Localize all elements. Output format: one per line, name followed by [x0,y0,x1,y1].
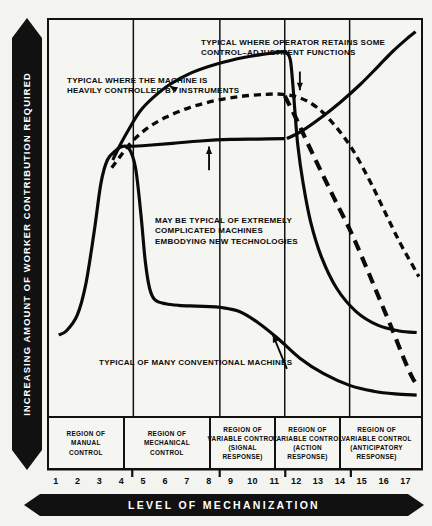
x-tick-label: 2 [75,476,80,486]
annotation-instruments: TYPICAL WHERE THE MACHINE IS HEAVILY CON… [67,76,239,97]
annotation-complicated-machines: MAY BE TYPICAL OF EXTREMELY COMPLICATED … [155,216,298,247]
x-tick-label: 14 [335,476,345,486]
x-axis-ticks: 1234567891011121314151617 [47,470,423,490]
region-label: REGION OF VARIABLE CONTROL (ACTION RESPO… [272,425,342,461]
series-curve [112,94,419,277]
x-tick-label: 17 [400,476,410,486]
series-curve [220,307,417,395]
x-tick-label: 12 [291,476,301,486]
region-box-0: REGION OF MANUAL CONTROL [49,418,125,468]
region-label: REGION OF MECHANICAL CONTROL [144,429,190,456]
y-axis-arrow: INCREASING AMOUNT OF WORKER CONTRIBUTION… [12,18,42,470]
x-tick-label: 4 [119,476,124,486]
annotation-conventional-machines: TYPICAL OF MANY CONVENTIONAL MACHINES [99,358,292,368]
x-tick-label: 9 [228,476,233,486]
region-label: REGION OF MANUAL CONTROL [67,429,106,456]
region-label: REGION OF VARIABLE CONTROL (SIGNAL RESPO… [207,425,277,461]
x-tick-label: 15 [357,476,367,486]
x-tick-label: 6 [162,476,167,486]
x-tick-label: 1 [53,476,58,486]
x-axis-arrow: LEVEL OF MECHANIZATION [24,492,424,518]
leader-arrow-operator [297,72,303,91]
region-box-2: REGION OF VARIABLE CONTROL (SIGNAL RESPO… [211,418,276,468]
chart-root: INCREASING AMOUNT OF WORKER CONTRIBUTION… [0,0,432,526]
x-axis-label: LEVEL OF MECHANIZATION [24,492,424,518]
series-curve [285,96,419,387]
leader-arrow-complicated [206,147,212,171]
plot-frame: TYPICAL WHERE THE MACHINE IS HEAVILY CON… [47,18,423,470]
region-box-1: REGION OF MECHANICAL CONTROL [125,418,212,468]
x-tick-label: 7 [184,476,189,486]
x-tick-label: 11 [269,476,279,486]
x-tick-label: 3 [97,476,102,486]
series-curve [129,139,285,147]
x-tick-label: 16 [378,476,388,486]
region-box-4: REGION OF VARIABLE CONTROL (ANTICIPATORY… [341,418,412,468]
x-tick-label: 10 [247,476,257,486]
region-label-strip: REGION OF MANUAL CONTROLREGION OF MECHAN… [49,416,421,468]
x-tick-label: 13 [313,476,323,486]
x-tick-label: 5 [141,476,146,486]
region-box-3: REGION OF VARIABLE CONTROL (ACTION RESPO… [276,418,341,468]
x-tick-label: 8 [206,476,211,486]
region-label: REGION OF VARIABLE CONTROL (ANTICIPATORY… [341,425,411,461]
annotation-operator-retains: TYPICAL WHERE OPERATOR RETAINS SOME CONT… [201,38,385,59]
